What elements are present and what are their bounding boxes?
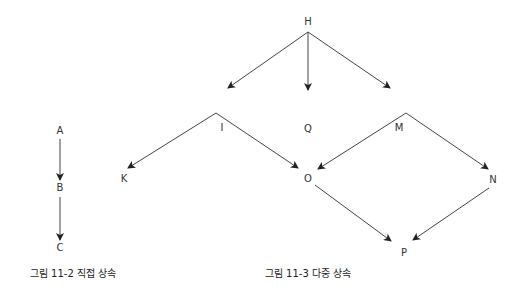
edges-group <box>60 32 489 241</box>
edge-h-to-i <box>228 32 308 88</box>
node-q: Q <box>304 124 312 134</box>
node-i: I <box>221 123 224 133</box>
node-c: C <box>57 243 64 253</box>
figure-caption-direct-inheritance: 그림 11-2 직접 상속 <box>30 265 116 280</box>
node-a: A <box>57 126 64 136</box>
edge-o-to-p <box>315 185 391 241</box>
node-n: N <box>489 175 496 185</box>
node-k: K <box>121 174 128 184</box>
node-p: P <box>401 248 407 258</box>
figure-caption-multiple-inheritance: 그림 11-3 다중 상속 <box>265 265 351 280</box>
edge-i-to-o <box>216 113 298 168</box>
edge-i-to-k <box>128 113 216 168</box>
diagram-canvas <box>0 0 522 294</box>
node-b: B <box>57 183 64 193</box>
node-o: O <box>304 174 312 184</box>
edge-m-to-n <box>406 113 488 169</box>
edge-h-to-m <box>308 32 390 88</box>
node-m: M <box>395 123 404 133</box>
edge-m-to-o <box>318 113 406 169</box>
node-h: H <box>304 17 312 27</box>
edge-n-to-p <box>413 188 489 240</box>
